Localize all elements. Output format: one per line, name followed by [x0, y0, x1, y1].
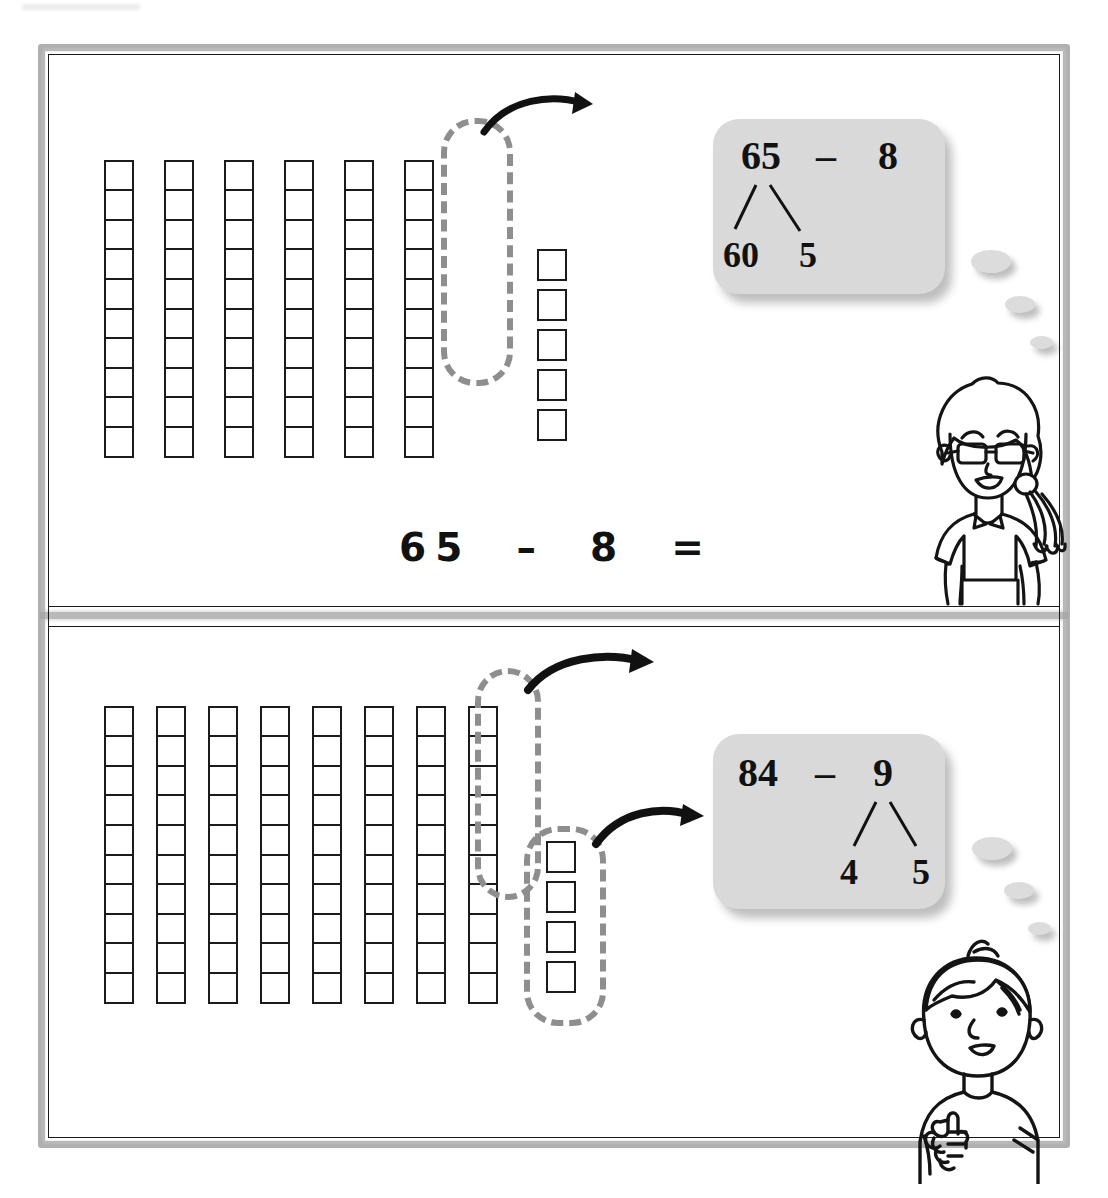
unit-cell: [104, 706, 134, 738]
ten-rod[interactable]: [468, 706, 498, 1004]
unit-cell: [404, 189, 434, 221]
worksheet-page: 65 – 8 60 5: [0, 0, 1108, 1198]
bubble-subtrahend: 8: [878, 133, 898, 178]
boy-thumbs-up-character: [890, 934, 1070, 1184]
unit-cell: [104, 189, 134, 221]
problem-2-loose-units: [546, 841, 576, 993]
unit-cell: [260, 824, 290, 856]
ten-rod[interactable]: [156, 706, 186, 1004]
problem-2-move-arrow-units: [590, 804, 710, 852]
ten-rod[interactable]: [284, 160, 314, 458]
unit-cell: [224, 367, 254, 399]
bubble-minuend: 84: [738, 750, 778, 795]
unit-cell: [284, 367, 314, 399]
unit-cell: [344, 219, 374, 251]
problem-1-bubble-dot-medium: [1005, 296, 1035, 313]
unit-cell: [312, 735, 342, 767]
unit-cell: [416, 913, 446, 945]
loose-unit-block[interactable]: [546, 881, 576, 913]
unit-cell: [468, 735, 498, 767]
unit-cell: [224, 337, 254, 369]
unit-cell: [208, 883, 238, 915]
unit-cell: [416, 735, 446, 767]
unit-cell: [312, 706, 342, 738]
unit-cell: [364, 942, 394, 974]
unit-cell: [208, 706, 238, 738]
unit-cell: [156, 854, 186, 886]
loose-unit-block[interactable]: [537, 409, 567, 441]
unit-cell: [284, 189, 314, 221]
bubble-minuend: 65: [741, 133, 781, 178]
problem-2-thought-bubble: 84 – 9 4 5: [713, 734, 945, 909]
loose-unit-block[interactable]: [537, 249, 567, 281]
loose-unit-block[interactable]: [537, 369, 567, 401]
ten-rod[interactable]: [344, 160, 374, 458]
bond-part-left: 60: [723, 235, 759, 275]
unit-cell: [164, 248, 194, 280]
problem-1-ten-rods: [104, 140, 434, 458]
unit-cell: [156, 942, 186, 974]
bond-branch-right: [890, 802, 916, 846]
unit-cell: [344, 308, 374, 340]
panel-1-bottom-rule: [48, 606, 1060, 607]
unit-cell: [260, 913, 290, 945]
ten-rod[interactable]: [104, 160, 134, 458]
unit-cell: [224, 189, 254, 221]
unit-cell: [104, 883, 134, 915]
unit-cell: [156, 765, 186, 797]
loose-unit-block[interactable]: [537, 329, 567, 361]
unit-cell: [208, 854, 238, 886]
bubble-operator: –: [815, 133, 837, 178]
unit-cell: [208, 972, 238, 1004]
unit-cell: [404, 337, 434, 369]
unit-cell: [156, 972, 186, 1004]
unit-cell: [284, 396, 314, 428]
unit-cell: [344, 278, 374, 310]
problem-1-loose-units: [537, 249, 567, 441]
unit-cell: [468, 942, 498, 974]
ten-rod[interactable]: [224, 160, 254, 458]
unit-cell: [224, 160, 254, 192]
ten-rod[interactable]: [364, 706, 394, 1004]
unit-cell: [416, 706, 446, 738]
ten-rod[interactable]: [208, 706, 238, 1004]
unit-cell: [156, 794, 186, 826]
ten-rod[interactable]: [260, 706, 290, 1004]
loose-unit-block[interactable]: [546, 961, 576, 993]
unit-cell: [104, 913, 134, 945]
ten-rod[interactable]: [404, 160, 434, 458]
problem-1-number-bond: 65 – 8 60 5: [713, 119, 945, 294]
problem-1-panel: 65 – 8 60 5: [0, 0, 1108, 606]
ten-rod[interactable]: [416, 706, 446, 1004]
unit-cell: [344, 367, 374, 399]
unit-cell: [104, 854, 134, 886]
unit-cell: [312, 972, 342, 1004]
loose-unit-block[interactable]: [546, 841, 576, 873]
loose-unit-block[interactable]: [537, 289, 567, 321]
ten-rod[interactable]: [312, 706, 342, 1004]
loose-unit-block[interactable]: [546, 921, 576, 953]
unit-cell: [260, 883, 290, 915]
unit-cell: [156, 883, 186, 915]
problem-2-bubble-dot-medium: [1004, 882, 1034, 899]
bond-part-right: 5: [799, 235, 817, 275]
unit-cell: [364, 824, 394, 856]
ten-rod[interactable]: [104, 706, 134, 1004]
unit-cell: [208, 794, 238, 826]
unit-cell: [224, 426, 254, 458]
unit-cell: [284, 248, 314, 280]
unit-cell: [416, 883, 446, 915]
ten-rod[interactable]: [164, 160, 194, 458]
bond-branch-left: [735, 185, 756, 229]
unit-cell: [156, 735, 186, 767]
bond-part-left: 4: [840, 852, 858, 892]
unit-cell: [468, 883, 498, 915]
unit-cell: [416, 794, 446, 826]
bond-part-right: 5: [912, 852, 930, 892]
unit-cell: [468, 824, 498, 856]
unit-cell: [104, 396, 134, 428]
bubble-subtrahend: 9: [873, 750, 893, 795]
problem-1-rod-lasso: [441, 118, 513, 386]
unit-cell: [364, 854, 394, 886]
unit-cell: [344, 248, 374, 280]
